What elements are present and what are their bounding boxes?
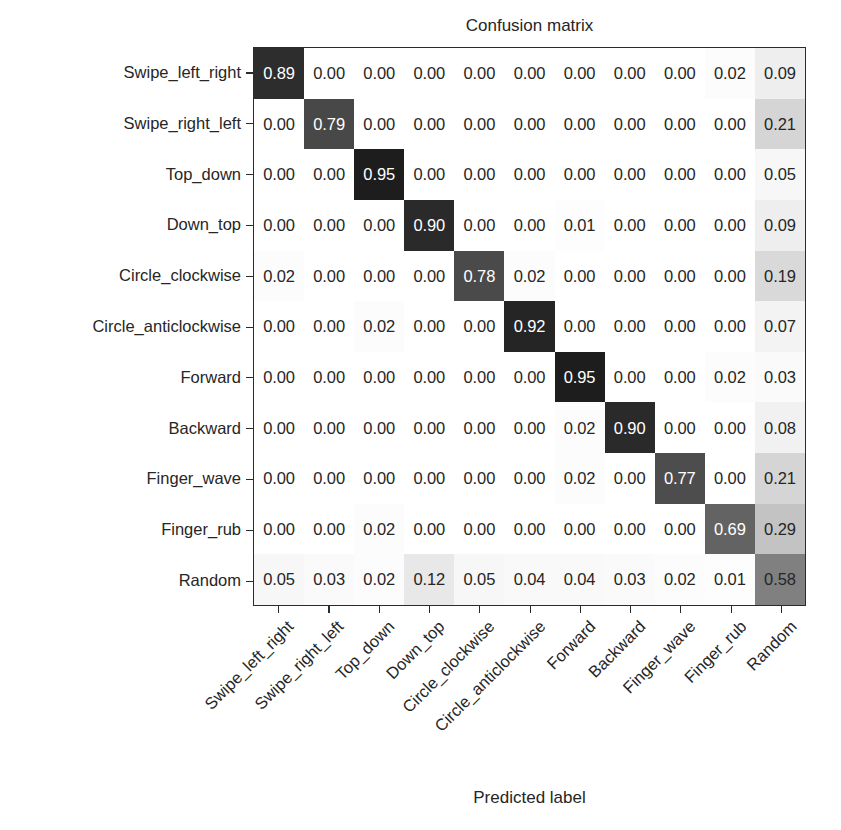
- matrix-cell: 0.00: [354, 48, 404, 99]
- matrix-cell: 0.00: [254, 352, 304, 403]
- matrix-cell-value: 0.00: [614, 268, 646, 285]
- matrix-cell-value: 0.00: [263, 521, 295, 538]
- y-tick-mark: [246, 225, 253, 226]
- matrix-cell: 0.00: [555, 149, 605, 200]
- matrix-cell-value: 0.02: [714, 369, 746, 386]
- matrix-cell: 0.08: [755, 402, 805, 453]
- matrix-cell-value: 0.95: [564, 369, 596, 386]
- matrix-cell: 0.00: [304, 149, 354, 200]
- matrix-cell-value: 0.04: [514, 571, 546, 588]
- matrix-cell-value: 0.90: [614, 420, 646, 437]
- matrix-cell-value: 0.00: [564, 268, 596, 285]
- matrix-cell-value: 0.00: [263, 369, 295, 386]
- matrix-cell-value: 0.00: [664, 521, 696, 538]
- matrix-cell-value: 0.00: [413, 166, 445, 183]
- matrix-cell: 0.02: [555, 402, 605, 453]
- matrix-cell-value: 0.69: [714, 521, 746, 538]
- matrix-cell: 0.00: [705, 453, 755, 504]
- y-tick-label: Swipe_left_right: [124, 47, 241, 98]
- matrix-cell-value: 0.02: [664, 571, 696, 588]
- matrix-cell: 0.01: [705, 554, 755, 605]
- matrix-cell-value: 0.00: [564, 318, 596, 335]
- matrix-cell: 0.02: [354, 554, 404, 605]
- matrix-cell: 0.00: [655, 352, 705, 403]
- matrix-cell: 0.00: [454, 99, 504, 150]
- matrix-cell-value: 0.00: [413, 65, 445, 82]
- matrix-cell: 0.19: [755, 251, 805, 302]
- y-tick-mark: [246, 123, 253, 124]
- matrix-cell: 0.00: [705, 149, 755, 200]
- matrix-cell: 0.02: [354, 301, 404, 352]
- matrix-cell: 0.03: [605, 554, 655, 605]
- matrix-cell: 0.00: [504, 99, 554, 150]
- matrix-cell-value: 0.00: [714, 318, 746, 335]
- x-tick-label: Swipe_left_right: [201, 617, 297, 713]
- matrix-cell: 0.00: [454, 149, 504, 200]
- matrix-cell-value: 0.00: [263, 318, 295, 335]
- matrix-cell: 0.00: [404, 99, 454, 150]
- matrix-cell-value: 0.00: [464, 369, 496, 386]
- matrix-cell: 0.00: [555, 48, 605, 99]
- matrix-cell: 0.00: [605, 48, 655, 99]
- y-tick-label: Swipe_right_left: [124, 98, 241, 149]
- matrix-cell: 0.00: [404, 504, 454, 555]
- matrix-cell-value: 0.00: [313, 420, 345, 437]
- matrix-cell: 0.00: [605, 99, 655, 150]
- matrix-cell-value: 0.03: [764, 369, 796, 386]
- matrix-cell: 0.00: [655, 200, 705, 251]
- matrix-cell: 0.02: [705, 48, 755, 99]
- x-tick-label: Circle_clockwise: [399, 617, 499, 717]
- matrix-cell: 0.58: [755, 554, 805, 605]
- matrix-cell: 0.00: [254, 504, 304, 555]
- y-tick-label: Backward: [169, 403, 241, 454]
- matrix-grid: 0.890.000.000.000.000.000.000.000.000.02…: [254, 48, 805, 605]
- matrix-cell: 0.00: [354, 251, 404, 302]
- matrix-cell-value: 0.00: [313, 166, 345, 183]
- y-tick-mark: [246, 327, 253, 328]
- matrix-cell: 0.00: [504, 453, 554, 504]
- matrix-cell-value: 0.00: [363, 116, 395, 133]
- matrix-cell: 0.05: [254, 554, 304, 605]
- matrix-cell: 0.00: [254, 149, 304, 200]
- matrix-cell-value: 0.00: [313, 65, 345, 82]
- matrix-cell: 0.00: [605, 200, 655, 251]
- matrix-cell: 0.00: [655, 301, 705, 352]
- matrix-cell-value: 0.09: [764, 65, 796, 82]
- matrix-cell-value: 0.00: [514, 65, 546, 82]
- matrix-cell-value: 0.00: [363, 470, 395, 487]
- matrix-cell-value: 0.00: [313, 470, 345, 487]
- matrix-cell-value: 0.00: [464, 166, 496, 183]
- matrix-cell: 0.00: [354, 453, 404, 504]
- matrix-cell: 0.21: [755, 99, 805, 150]
- y-tick-mark: [246, 72, 253, 73]
- x-tick-mark: [680, 606, 681, 613]
- y-tick-label: Down_top: [167, 199, 241, 250]
- matrix-cell: 0.00: [605, 352, 655, 403]
- matrix-cell: 0.00: [655, 504, 705, 555]
- matrix-cell-value: 0.00: [363, 268, 395, 285]
- matrix-cell-value: 0.78: [464, 268, 496, 285]
- matrix-cell: 0.00: [605, 453, 655, 504]
- matrix-cell-value: 0.09: [764, 217, 796, 234]
- matrix-cell-value: 0.02: [363, 318, 395, 335]
- matrix-cell-value: 0.00: [714, 116, 746, 133]
- x-tick-mark: [278, 606, 279, 613]
- matrix-cell: 0.00: [454, 301, 504, 352]
- matrix-cell: 0.92: [504, 301, 554, 352]
- matrix-cell-value: 0.00: [664, 369, 696, 386]
- matrix-cell: 0.02: [254, 251, 304, 302]
- x-tick-mark: [429, 606, 430, 613]
- matrix-cell-value: 0.00: [263, 470, 295, 487]
- matrix-cell-value: 0.03: [614, 571, 646, 588]
- matrix-cell-value: 0.00: [714, 470, 746, 487]
- matrix-cell-value: 0.00: [614, 369, 646, 386]
- matrix-cell: 0.00: [254, 402, 304, 453]
- matrix-cell-value: 0.92: [514, 318, 546, 335]
- matrix-cell: 0.00: [655, 48, 705, 99]
- matrix-cell: 0.00: [504, 48, 554, 99]
- matrix-cell-value: 0.77: [664, 470, 696, 487]
- matrix-cell: 0.02: [655, 554, 705, 605]
- matrix-cell-value: 0.00: [564, 166, 596, 183]
- matrix-cell: 0.29: [755, 504, 805, 555]
- matrix-cell-value: 0.00: [514, 420, 546, 437]
